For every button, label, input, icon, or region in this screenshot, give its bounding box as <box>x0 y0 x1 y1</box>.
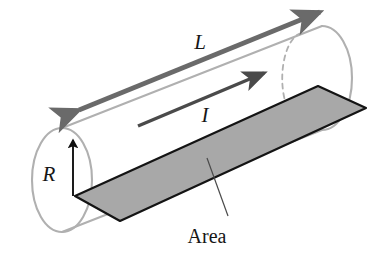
cylinder-area-figure: L I R Area <box>0 0 386 260</box>
length-label: L <box>193 30 206 54</box>
area-label: Area <box>188 225 227 247</box>
radius-label: R <box>42 162 56 186</box>
figure-canvas: L I R Area <box>0 0 386 260</box>
cylinder-left-cap <box>32 128 92 232</box>
left-cap-ellipse <box>32 128 92 232</box>
current-label: I <box>201 103 210 127</box>
